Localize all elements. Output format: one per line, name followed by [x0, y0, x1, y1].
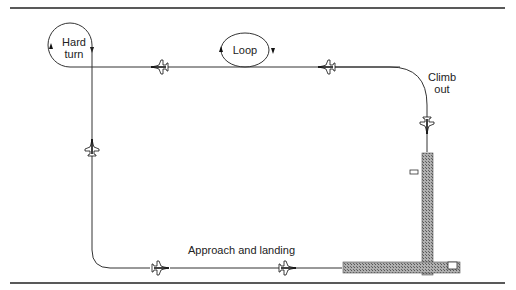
climb-out-curve — [320, 67, 427, 120]
hard-turn-label: Hard turn — [61, 36, 87, 60]
approach-label: Approach and landing — [188, 244, 295, 256]
runway-vertical — [422, 153, 433, 275]
vertical-leg — [92, 45, 150, 268]
loop-arrow-right-icon — [271, 48, 275, 54]
jet-icon — [152, 261, 169, 275]
building-box — [448, 262, 457, 269]
loop-arrow-left-icon — [219, 46, 223, 52]
runway-horizontal — [343, 262, 460, 273]
arrow-up-icon — [49, 43, 53, 49]
building-small — [410, 170, 418, 174]
jet-icon — [85, 139, 99, 156]
loop-label: Loop — [230, 44, 260, 56]
jet-icon — [151, 60, 168, 74]
jet-icon — [279, 261, 296, 275]
jet-icon — [420, 117, 434, 134]
jet-icon — [318, 60, 335, 74]
climb-out-label: Climb out — [424, 71, 460, 95]
